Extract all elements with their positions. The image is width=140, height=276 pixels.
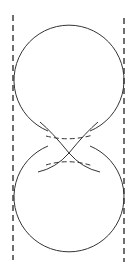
figure-canvas <box>0 0 140 276</box>
upper-dashed-arc <box>46 135 93 139</box>
lower-dashed-arc <box>46 162 93 166</box>
lower-circle <box>14 146 124 252</box>
upper-circle <box>14 25 124 131</box>
